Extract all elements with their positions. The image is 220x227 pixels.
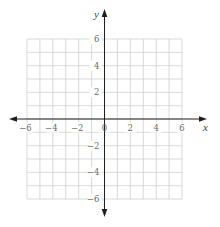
x-axis-label: x [202,121,208,133]
coordinate-plane: −6−4−20246642−2−4−6 x y [0,0,220,227]
x-tick-label: −4 [45,123,58,133]
y-axis-label: y [93,8,99,20]
x-tick-label: 6 [179,123,184,133]
x-tick-label: 4 [153,123,158,133]
y-tick-label: −6 [87,194,100,204]
x-axis-left-arrow-icon [9,116,17,122]
x-tick-label: 0 [102,123,107,133]
y-axis-down-arrow-icon [102,209,108,217]
y-axis-up-arrow-icon [102,9,108,17]
y-tick-label: 2 [94,87,99,97]
y-tick-label: −2 [87,141,100,151]
y-tick-label: 4 [94,61,99,71]
y-tick-label: −4 [87,167,100,177]
x-tick-label: 2 [128,123,133,133]
x-tick-label: −6 [19,123,32,133]
y-tick-label: 6 [94,34,99,44]
x-tick-label: −2 [71,123,84,133]
